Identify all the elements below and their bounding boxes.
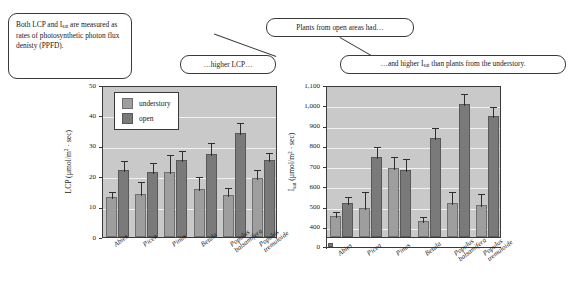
callout-higher-lcp: …higher LCP…	[180, 55, 276, 74]
bar-open	[430, 138, 441, 237]
error-bar	[211, 143, 212, 156]
gridline	[103, 148, 276, 149]
bar-open	[400, 170, 411, 237]
error-bar	[464, 94, 465, 107]
error-bar	[435, 128, 436, 140]
error-bar-cap	[333, 212, 340, 213]
error-bar-cap	[478, 194, 485, 195]
gridline	[327, 168, 500, 169]
legend-item-understory: understory	[122, 98, 171, 109]
bar-understory	[418, 221, 429, 237]
error-bar-cap	[461, 94, 468, 95]
error-bar	[377, 147, 378, 159]
error-bar	[348, 197, 349, 204]
legend: understoryopen	[114, 92, 179, 130]
y-tick	[323, 187, 326, 188]
bar-open	[235, 133, 246, 237]
error-bar-cap	[208, 143, 215, 144]
callout-higher-isat: …and higher Isat than plants from the un…	[340, 55, 566, 74]
error-bar	[141, 182, 142, 196]
error-bar	[365, 192, 366, 210]
error-bar	[240, 123, 241, 135]
y-tick-label-zero: 0	[288, 244, 320, 251]
y-tick-label: 1,100	[288, 83, 320, 90]
error-bar-cap	[121, 161, 128, 162]
gridline	[327, 107, 500, 108]
error-bar-cap	[374, 147, 381, 148]
x-axis-label: Picea	[366, 242, 383, 258]
callout-higher-isat-text: …and higher Isat than plants from the un…	[380, 59, 525, 70]
error-bar-cap	[266, 153, 273, 154]
x-axis-label: Pinus	[395, 242, 412, 258]
bar-open	[147, 172, 158, 237]
error-bar	[182, 151, 183, 162]
y-tick-label: 50	[64, 83, 96, 90]
bar-open	[206, 154, 217, 237]
y-tick	[323, 167, 326, 168]
error-bar-cap	[391, 157, 398, 158]
bar-understory	[447, 203, 458, 237]
bar-understory	[330, 216, 341, 237]
y-tick	[323, 208, 326, 209]
bar-open	[264, 160, 275, 237]
error-bar	[406, 159, 407, 172]
callout-open-areas-text: Plants from open areas had…	[296, 23, 383, 33]
error-bar	[228, 188, 229, 197]
y-axis-title: Isat (µmol/m2 · sec)	[287, 102, 297, 222]
callout-ppfd-note: Both LCP and Isat are measured as rates …	[8, 13, 132, 79]
y-tick-label: 400	[288, 224, 320, 231]
bar-understory	[388, 168, 399, 237]
error-bar-cap	[490, 107, 497, 108]
bar-understory	[106, 197, 117, 237]
y-axis-title: LCP (µmol/m2 · sec)	[63, 102, 72, 222]
error-bar	[153, 163, 154, 174]
error-bar-cap	[420, 217, 427, 218]
legend-label-open: open	[139, 114, 153, 123]
error-bar	[481, 194, 482, 207]
y-tick	[99, 208, 102, 209]
bar-understory	[135, 194, 146, 237]
bar-understory	[359, 208, 370, 237]
axis-break-marker	[328, 243, 333, 247]
x-axis-label: Betula	[424, 241, 443, 258]
error-bar	[493, 107, 494, 118]
error-bar-cap	[403, 159, 410, 160]
error-bar-cap	[167, 155, 174, 156]
gridline	[327, 188, 500, 189]
bar-open	[342, 203, 353, 237]
error-bar-cap	[237, 123, 244, 124]
legend-swatch-understory	[122, 98, 133, 109]
error-bar	[269, 153, 270, 162]
error-bar-cap	[254, 170, 261, 171]
y-tick	[323, 106, 326, 107]
error-bar-cap	[109, 192, 116, 193]
y-tick	[99, 86, 102, 87]
error-bar-cap	[179, 151, 186, 152]
bar-open	[488, 116, 499, 237]
plot-area	[326, 86, 501, 238]
error-bar-cap	[138, 182, 145, 183]
legend-swatch-open	[122, 113, 133, 124]
bar-open	[459, 104, 470, 237]
error-bar	[170, 155, 171, 174]
bar-understory	[164, 172, 175, 237]
error-bar-cap	[432, 128, 439, 129]
bar-understory	[223, 195, 234, 237]
error-bar-cap	[449, 192, 456, 193]
y-tick	[323, 147, 326, 148]
y-tick	[323, 86, 326, 87]
error-bar-cap	[225, 188, 232, 189]
bar-open	[176, 160, 187, 237]
legend-item-open: open	[122, 113, 171, 124]
y-tick-label: 0	[64, 235, 96, 242]
y-tick	[323, 127, 326, 128]
y-tick	[99, 116, 102, 117]
bar-open	[118, 170, 129, 237]
callout-ppfd-text: Both LCP and Isat are measured as rates …	[16, 20, 119, 50]
error-bar	[199, 177, 200, 191]
error-bar-cap	[150, 163, 157, 164]
bar-open	[371, 157, 382, 237]
error-bar-cap	[362, 192, 369, 193]
callout-higher-lcp-text: …higher LCP…	[203, 60, 252, 70]
gridline	[327, 148, 500, 149]
